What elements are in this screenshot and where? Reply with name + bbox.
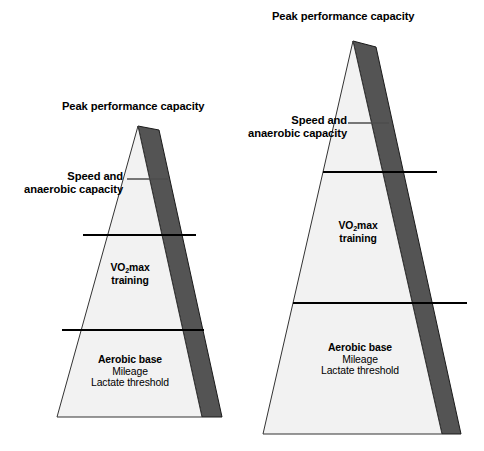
right-speed-line-1: Speed and — [291, 114, 347, 126]
right-aerobic-sub-mileage: Mileage — [295, 354, 425, 366]
right-vo2-line-2: training — [339, 233, 376, 244]
left-speed-anaerobic-label: Speed and anaerobic capacity — [8, 170, 123, 195]
training-pyramid-figure: Peak performance capacity Speed and anae… — [0, 0, 484, 451]
right-speed-line-2: anaerobic capacity — [248, 127, 347, 139]
left-vo2max-training-label: VO2max training — [90, 262, 170, 286]
right-vo2max-training-label: VO2max training — [318, 220, 398, 244]
right-vo2-prefix: VO — [338, 220, 353, 231]
right-vo2-suffix: max — [357, 220, 378, 231]
left-aerobic-base-label: Aerobic base Mileage Lactate threshold — [70, 354, 190, 389]
left-aerobic-sub-lactate: Lactate threshold — [70, 377, 190, 389]
right-aerobic-heading: Aerobic base — [295, 342, 425, 354]
left-aerobic-sub-mileage: Mileage — [70, 366, 190, 378]
right-aerobic-base-label: Aerobic base Mileage Lactate threshold — [295, 342, 425, 377]
left-aerobic-heading: Aerobic base — [70, 354, 190, 366]
right-speed-anaerobic-label: Speed and anaerobic capacity — [232, 114, 347, 139]
left-vo2-prefix: VO — [110, 262, 125, 273]
left-speed-line-2: anaerobic capacity — [24, 183, 123, 195]
left-speed-line-1: Speed and — [67, 170, 123, 182]
right-peak-performance-label: Peak performance capacity — [272, 10, 414, 23]
right-aerobic-sub-lactate: Lactate threshold — [295, 365, 425, 377]
left-peak-performance-label: Peak performance capacity — [62, 100, 204, 113]
left-vo2-line-2: training — [111, 275, 148, 286]
left-vo2-suffix: max — [129, 262, 150, 273]
